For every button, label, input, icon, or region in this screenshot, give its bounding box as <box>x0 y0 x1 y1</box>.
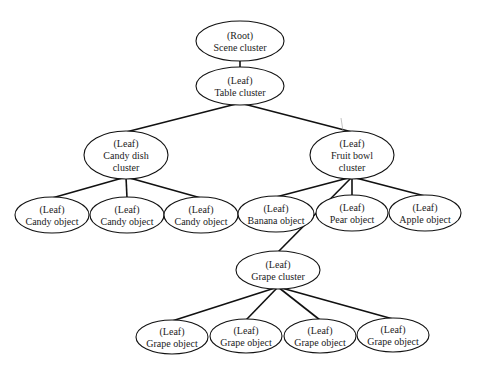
node-banana: (Leaf)Banana object <box>238 196 314 232</box>
node-candy3: (Leaf)Candy object <box>164 197 238 233</box>
node-name-label: Table cluster <box>214 87 266 98</box>
node-kind-label: (Leaf) <box>115 204 140 216</box>
node-grape4: (Leaf)Grape object <box>357 318 429 352</box>
edge-grapecluster-to-grape3 <box>278 287 320 320</box>
node-kind-label: (Leaf) <box>228 75 253 87</box>
node-name-label: Apple object <box>399 214 451 225</box>
node-name-label: Grape object <box>367 336 419 347</box>
node-candydish: (Leaf)Candy dishcluster <box>84 131 168 179</box>
node-grape2: (Leaf)Grape object <box>210 319 282 353</box>
node-name-label: Candy dish <box>103 150 148 161</box>
node-kind-label: (Leaf) <box>189 204 214 216</box>
node-name-label: Grape object <box>146 338 198 349</box>
node-kind-label: (Leaf) <box>381 324 406 336</box>
edge-candydish-to-candy2 <box>126 177 127 198</box>
edge-table-to-fruitbowl <box>240 103 352 132</box>
edge-candydish-to-candy3 <box>126 177 201 198</box>
node-candy2: (Leaf)Candy object <box>90 197 164 233</box>
node-kind-label: (Leaf) <box>340 138 365 150</box>
node-kind-label: (Leaf) <box>160 326 185 338</box>
node-kind-label: (Leaf) <box>308 325 333 337</box>
node-kind-label: (Leaf) <box>234 325 259 337</box>
node-name-label: Grape object <box>220 337 272 348</box>
node-root: (Root)Scene cluster <box>196 21 284 61</box>
scene-graph-tree: (Root)Scene cluster(Leaf)Table cluster(L… <box>0 0 481 368</box>
node-table: (Leaf)Table cluster <box>196 67 284 105</box>
node-name-label: cluster <box>339 162 366 173</box>
node-name-label: Fruit bowl <box>331 150 373 161</box>
node-kind-label: (Leaf) <box>266 259 291 271</box>
node-name-label: cluster <box>113 162 140 173</box>
edge-candydish-to-candy1 <box>52 177 126 198</box>
node-kind-label: (Leaf) <box>264 203 289 215</box>
node-name-label: Grape cluster <box>251 271 305 282</box>
node-candy1: (Leaf)Candy object <box>15 197 89 233</box>
node-fruitbowl: (Leaf)Fruit bowlcluster <box>310 131 394 179</box>
edge-fruitbowl-to-banana <box>276 177 352 197</box>
edge-grapecluster-to-grape4 <box>278 287 393 319</box>
node-name-label: Banana object <box>248 215 305 226</box>
node-name-label: Candy object <box>100 216 153 227</box>
node-name-label: Candy object <box>25 216 78 227</box>
node-kind-label: (Leaf) <box>114 138 139 150</box>
node-name-label: Pear object <box>330 214 375 225</box>
node-kind-label: (Leaf) <box>340 202 365 214</box>
edge-table-to-candydish <box>126 103 240 132</box>
node-name-label: Scene cluster <box>213 42 267 53</box>
node-pear: (Leaf)Pear object <box>316 195 388 231</box>
node-name-label: Grape object <box>294 337 346 348</box>
node-name-label: Candy object <box>174 216 227 227</box>
node-kind-label: (Root) <box>227 30 253 42</box>
node-grape1: (Leaf)Grape object <box>136 320 208 354</box>
node-kind-label: (Leaf) <box>413 202 438 214</box>
node-kind-label: (Leaf) <box>40 204 65 216</box>
node-grape3: (Leaf)Grape object <box>284 319 356 353</box>
node-grapecluster: (Leaf)Grape cluster <box>236 251 320 289</box>
edge-fruitbowl-to-apple <box>352 177 425 196</box>
node-apple: (Leaf)Apple object <box>389 195 461 231</box>
